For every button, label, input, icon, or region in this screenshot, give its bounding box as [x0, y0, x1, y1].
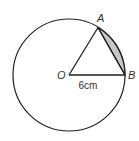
- chord-ab: [98, 28, 125, 76]
- radius-oa: [69, 28, 98, 76]
- label-b: B: [128, 69, 135, 81]
- circle-sector-diagram: O A B 6cm: [0, 0, 139, 141]
- label-a: A: [96, 12, 104, 24]
- radius-measure-label: 6cm: [79, 80, 98, 91]
- label-o: O: [57, 69, 66, 81]
